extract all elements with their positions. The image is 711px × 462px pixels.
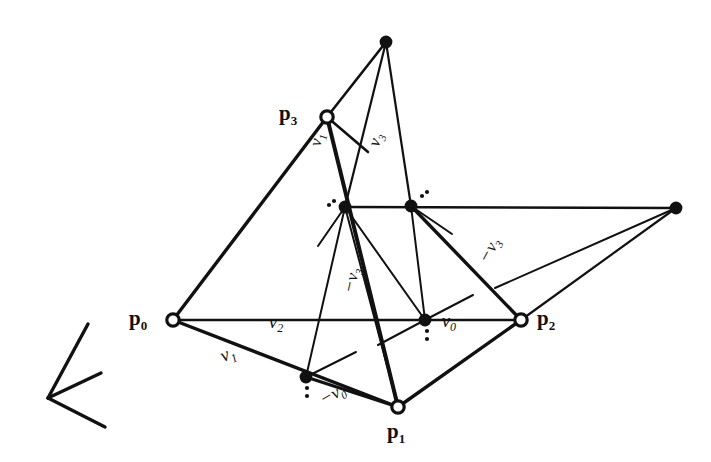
dot-pair-lowermid-b: [425, 337, 429, 341]
edge-p1-p2: [398, 320, 521, 407]
figure-canvas: p0p1p2p3v1v2v1v3−v3−v3−v0−v0: [0, 0, 711, 462]
minus-sign: −: [430, 310, 442, 331]
point-label-subscript: 0: [141, 318, 148, 333]
edge-apex-midright: [386, 42, 411, 206]
vector-label-v2-edge-p0p2: v2: [269, 312, 283, 335]
edge-farright-p2: [521, 208, 676, 320]
tick-midright-a: [411, 206, 452, 234]
point-label-subscript: 2: [549, 318, 556, 333]
vertex-p2: [515, 314, 527, 326]
vertex-lower-left: [300, 371, 313, 384]
tick-lowerleft-a: [306, 352, 356, 377]
point-label-symbol: p: [129, 306, 141, 330]
point-label-symbol: p: [279, 101, 291, 125]
point-label-p2: p2: [537, 308, 555, 332]
dot-pair-lowerleft-a: [305, 386, 309, 390]
edge-midleft-p1: [345, 207, 398, 407]
vertex-p0: [167, 314, 179, 326]
vector-subscript: 2: [277, 321, 283, 335]
point-label-subscript: 1: [399, 431, 406, 446]
dot-pair-midleft-a: [327, 203, 331, 207]
edge-p0-p1: [173, 320, 398, 407]
point-label-subscript: 3: [291, 113, 298, 128]
edge-farright-tick: [495, 208, 676, 288]
vertex-p1: [392, 401, 404, 413]
vertex-p3: [321, 111, 333, 123]
vertex-right-far: [670, 202, 683, 215]
edge-p0-p3: [173, 117, 327, 320]
edge-midright-p2: [411, 206, 521, 320]
dot-pair-midright-b: [425, 190, 429, 194]
point-label-p0: p0: [129, 308, 147, 332]
figure-linework: [0, 0, 711, 462]
vertex-mid-left: [339, 201, 352, 214]
dot-pair-midleft-b: [332, 199, 336, 203]
point-label-p3: p3: [279, 103, 297, 127]
dot-pair-midright-a: [420, 194, 424, 198]
vector-symbol: v: [442, 310, 450, 331]
dot-pair-lowerleft-b: [305, 394, 309, 398]
dot-marker-group: [305, 190, 429, 398]
tick-lowermid-b: [378, 320, 425, 345]
dot-pair-lowermid-a: [425, 329, 429, 333]
vertex-apex-top: [380, 36, 393, 49]
vertex-mid-right: [405, 200, 418, 213]
orientation-arrow-stroke-2: [48, 398, 105, 427]
edge-midleft-lowerleft: [306, 207, 345, 377]
edge-midleft-midright: [345, 207, 676, 208]
point-label-p1: p1: [387, 421, 405, 445]
vector-label-neg-v0-lower-mid: −v0: [430, 311, 456, 334]
point-label-symbol: p: [387, 419, 399, 443]
orientation-arrow: [48, 324, 105, 427]
edge-group: [173, 42, 676, 407]
vector-subscript: 0: [450, 320, 456, 334]
point-label-symbol: p: [537, 306, 549, 330]
